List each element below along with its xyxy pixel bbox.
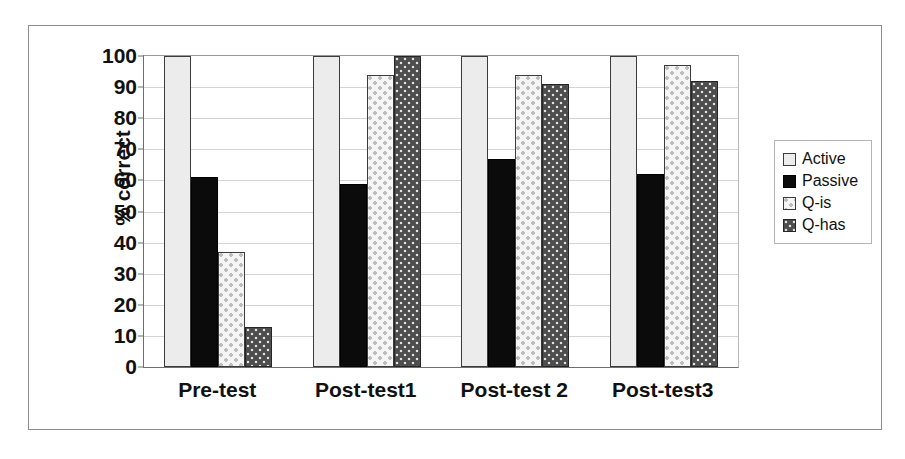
- legend-label-q-is: Q-is: [802, 194, 831, 212]
- bar-passive-post-test1: [340, 184, 367, 367]
- gridline: [144, 118, 738, 119]
- bar-q-is-post-test-2: [515, 75, 542, 367]
- legend-item-q-is[interactable]: Q-is: [783, 192, 865, 214]
- y-tick-mark: [138, 149, 144, 150]
- gridline: [144, 149, 738, 150]
- y-tick-mark: [138, 367, 144, 368]
- y-tick-label: 0: [125, 355, 137, 379]
- y-tick-label: 10: [114, 324, 137, 348]
- bar-passive-post-test-2: [488, 159, 515, 367]
- y-tick-mark: [138, 211, 144, 212]
- chart-legend: Active Passive Q-is Q-has: [774, 140, 872, 244]
- legend-item-active[interactable]: Active: [783, 148, 865, 170]
- legend-swatch-q-is-icon: [783, 197, 796, 210]
- legend-label-q-has: Q-has: [802, 216, 846, 234]
- y-tick-mark: [138, 335, 144, 336]
- bar-q-has-post-test-2: [542, 84, 569, 367]
- legend-label-active: Active: [802, 150, 846, 168]
- bar-q-has-post-test1: [394, 56, 421, 367]
- y-tick-label: 40: [114, 231, 137, 255]
- legend-swatch-passive-icon: [783, 175, 796, 188]
- figure-frame: % correct 0102030405060708090100 Active …: [28, 25, 882, 430]
- bar-active-post-test-2: [461, 56, 488, 367]
- x-tick-label: Post-test3: [612, 378, 714, 402]
- y-tick-mark: [138, 56, 144, 57]
- y-tick-mark: [138, 304, 144, 305]
- gridline: [144, 87, 738, 88]
- y-tick-label: 100: [102, 44, 137, 68]
- y-tick-label: 70: [114, 137, 137, 161]
- bar-passive-pre-test: [191, 177, 218, 367]
- bar-q-has-pre-test: [245, 327, 272, 367]
- bar-passive-post-test3: [637, 174, 664, 367]
- bar-q-is-post-test1: [367, 75, 394, 367]
- y-tick-mark: [138, 242, 144, 243]
- bar-q-is-post-test3: [664, 65, 691, 367]
- y-tick-label: 80: [114, 106, 137, 130]
- y-tick-label: 60: [114, 168, 137, 192]
- bar-active-pre-test: [164, 56, 191, 367]
- bar-q-is-pre-test: [218, 252, 245, 367]
- y-tick-mark: [138, 118, 144, 119]
- legend-swatch-active-icon: [783, 153, 796, 166]
- y-tick-mark: [138, 87, 144, 88]
- legend-item-q-has[interactable]: Q-has: [783, 214, 865, 236]
- x-tick-label: Pre-test: [178, 378, 256, 402]
- y-tick-mark: [138, 180, 144, 181]
- y-tick-label: 30: [114, 262, 137, 286]
- legend-item-passive[interactable]: Passive: [783, 170, 865, 192]
- plot-area: 0102030405060708090100: [143, 55, 739, 368]
- y-tick-label: 90: [114, 75, 137, 99]
- bar-q-has-post-test3: [691, 81, 718, 367]
- legend-label-passive: Passive: [802, 172, 858, 190]
- y-tick-mark: [138, 273, 144, 274]
- bar-active-post-test3: [610, 56, 637, 367]
- x-tick-label: Post-test 2: [461, 378, 568, 402]
- x-tick-label: Post-test1: [315, 378, 417, 402]
- y-tick-label: 50: [114, 200, 137, 224]
- legend-swatch-q-has-icon: [783, 219, 796, 232]
- y-tick-label: 20: [114, 293, 137, 317]
- bar-active-post-test1: [313, 56, 340, 367]
